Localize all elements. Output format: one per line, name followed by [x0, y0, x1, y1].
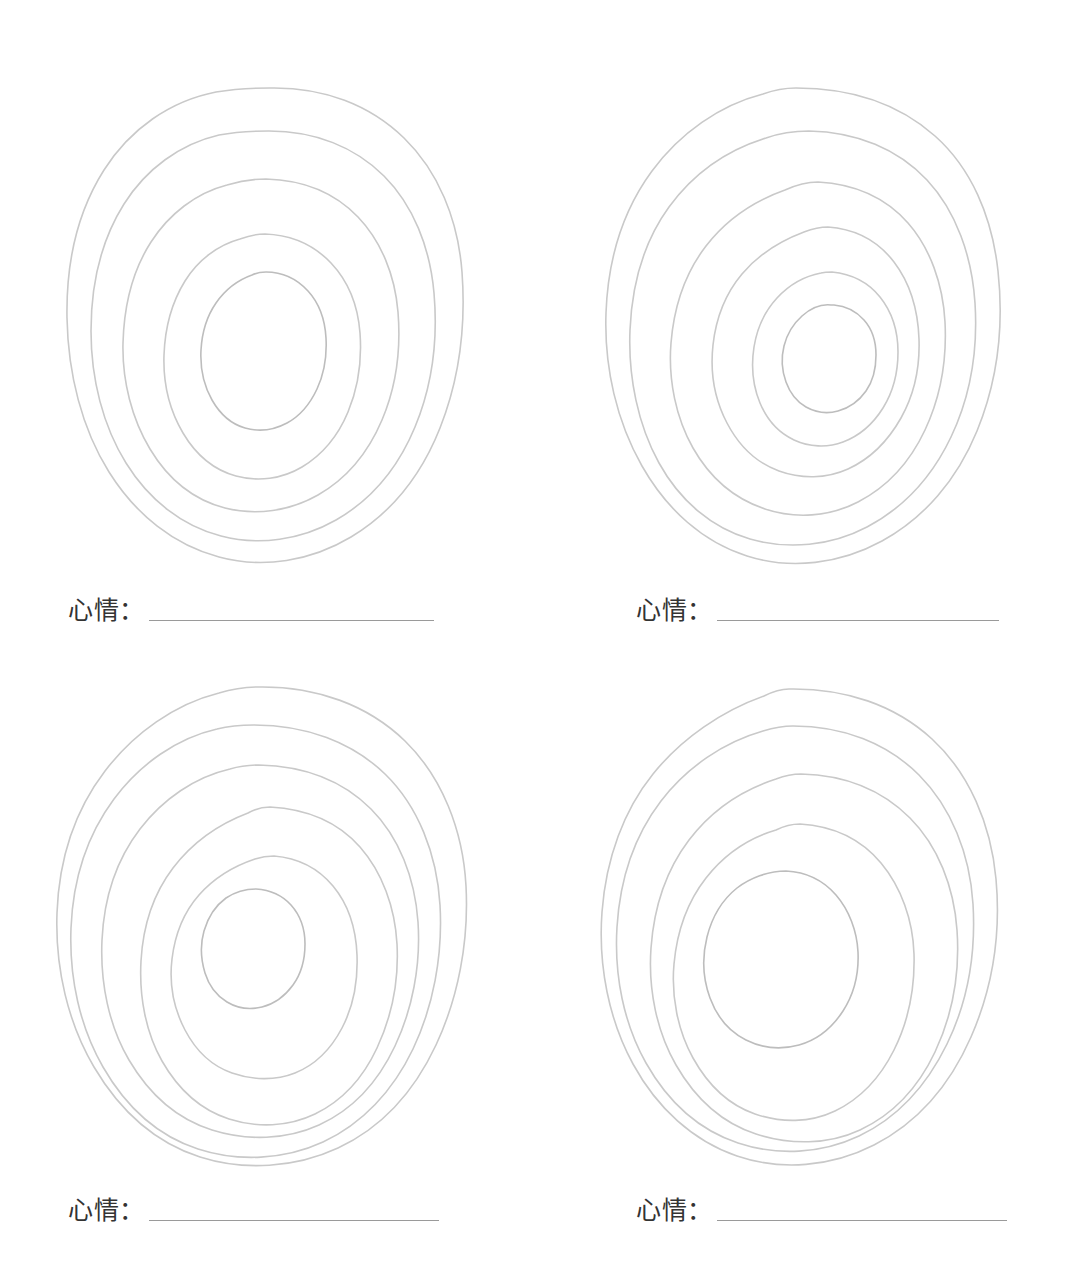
mood-write-line-3[interactable] — [149, 1220, 439, 1221]
mood-label-row-1: 心情： — [68, 598, 434, 626]
panel-grid: 心情： 心情： — [0, 0, 1071, 1274]
concentric-rings-drawing-2 — [593, 82, 1013, 582]
worksheet-page: 心情： 心情： — [0, 0, 1071, 1274]
mood-label-row-3: 心情： — [68, 1198, 439, 1226]
mood-label-4: 心情： — [636, 1198, 713, 1226]
mood-write-line-2[interactable] — [717, 620, 999, 621]
mood-panel-top-right: 心情： — [535, 0, 1071, 650]
ring-3-2 — [670, 182, 945, 515]
ring-4-4 — [673, 824, 914, 1120]
ring-inner-3 — [201, 889, 305, 1008]
concentric-rings-drawing-1 — [58, 80, 478, 580]
mood-write-line-1[interactable] — [149, 620, 434, 621]
concentric-rings-drawing-3 — [48, 678, 488, 1178]
mood-panel-bottom-left: 心情： — [0, 650, 535, 1274]
ring-outer-3 — [56, 687, 466, 1166]
mandala-container-4 — [535, 684, 1071, 1179]
mandala-container-2 — [535, 82, 1071, 582]
mood-label-1: 心情： — [68, 598, 145, 626]
ring-inner-4 — [704, 871, 858, 1048]
ring-outer-2 — [606, 88, 1000, 563]
concentric-rings-drawing-4 — [593, 684, 1013, 1179]
mandala-container-3 — [0, 678, 535, 1178]
mood-label-3: 心情： — [68, 1198, 145, 1226]
ring-outer-4 — [601, 689, 997, 1165]
ring-4-2 — [712, 227, 919, 477]
mood-panel-bottom-right: 心情： — [535, 650, 1071, 1274]
ring-outer-1 — [66, 88, 462, 563]
ring-inner-2 — [782, 305, 876, 413]
mood-write-line-4[interactable] — [717, 1220, 1007, 1221]
ring-2-3 — [70, 725, 440, 1157]
mood-panel-top-left: 心情： — [0, 0, 535, 650]
ring-4-1 — [163, 234, 360, 479]
ring-3-4 — [650, 774, 957, 1142]
mood-label-2: 心情： — [636, 598, 713, 626]
ring-2-2 — [630, 131, 976, 545]
ring-4-3 — [140, 807, 397, 1125]
ring-inner-1 — [200, 272, 325, 430]
ring-2-4 — [616, 726, 973, 1151]
mood-label-row-2: 心情： — [636, 598, 999, 626]
mandala-container-1 — [0, 80, 535, 580]
ring-3-3 — [101, 765, 418, 1137]
mood-label-row-4: 心情： — [636, 1198, 1007, 1226]
